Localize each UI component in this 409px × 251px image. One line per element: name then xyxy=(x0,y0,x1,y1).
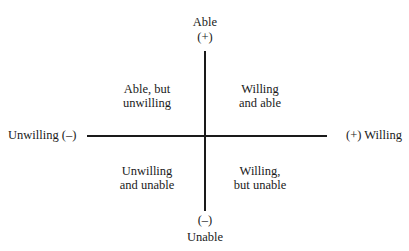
quadrant-bottom-right-line2: but unable xyxy=(215,178,305,192)
quadrant-top-left: Able, but unwilling xyxy=(102,82,192,110)
quadrant-top-left-line2: unwilling xyxy=(102,96,192,110)
quadrant-top-left-line1: Able, but xyxy=(102,82,192,96)
quadrant-top-right: Willing and able xyxy=(215,82,305,110)
quadrant-top-right-line2: and able xyxy=(215,96,305,110)
quadrant-bottom-left-line1: Unwilling xyxy=(102,164,192,178)
axis-top-label: Able xyxy=(193,15,217,29)
horizontal-axis-willingness xyxy=(87,135,327,137)
clipped-title-fragment xyxy=(95,0,310,3)
quadrant-bottom-left: Unwilling and unable xyxy=(102,164,192,192)
axis-bottom-pole: (–) Unable xyxy=(180,213,230,244)
willing-able-quadrant-diagram: Able (+) (–) Unable Unwilling (–) (+) Wi… xyxy=(0,0,409,251)
axis-bottom-sign: (–) xyxy=(180,213,230,227)
quadrant-top-right-line1: Willing xyxy=(215,82,305,96)
quadrant-bottom-right: Willing, but unable xyxy=(215,164,305,192)
quadrant-bottom-right-line1: Willing, xyxy=(215,164,305,178)
vertical-axis-ability xyxy=(204,51,206,211)
axis-top-sign: (+) xyxy=(184,30,226,44)
axis-right-label: (+) Willing xyxy=(346,128,402,142)
axis-bottom-label: Unable xyxy=(187,230,223,244)
axis-left-label: Unwilling (–) xyxy=(8,128,76,142)
axis-top-pole: Able (+) xyxy=(184,15,226,44)
quadrant-bottom-left-line2: and unable xyxy=(102,178,192,192)
